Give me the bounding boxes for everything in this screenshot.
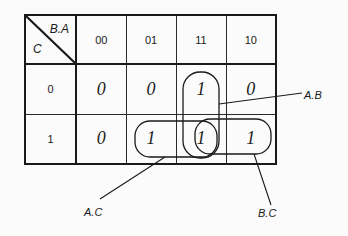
map-cell: 1 — [176, 114, 226, 164]
table-row: 1 0 1 1 1 — [25, 114, 276, 164]
row-variable-label: C — [33, 42, 42, 56]
header-row: B.A C 00 01 11 10 — [25, 15, 276, 64]
map-cell: 0 — [76, 64, 126, 114]
corner-cell: B.A C — [25, 15, 76, 64]
row-header: 1 — [25, 114, 76, 164]
map-cell: 1 — [226, 114, 276, 164]
term-label-ac: A.C — [84, 206, 102, 218]
karnaugh-map-table: B.A C 00 01 11 10 0 0 0 1 0 1 0 1 1 1 — [24, 14, 277, 165]
table-row: 0 0 0 1 0 — [25, 64, 276, 114]
map-cell: 0 — [226, 64, 276, 114]
column-header: 01 — [126, 15, 176, 64]
map-cell: 1 — [126, 114, 176, 164]
column-variables-label: B.A — [50, 22, 69, 36]
column-header: 11 — [176, 15, 226, 64]
term-label-bc: B.C — [258, 207, 276, 219]
term-label-ab: A.B — [304, 89, 322, 101]
column-header: 00 — [76, 15, 126, 64]
karnaugh-map-diagram: B.A C 00 01 11 10 0 0 0 1 0 1 0 1 1 1 — [0, 0, 348, 236]
column-header: 10 — [226, 15, 276, 64]
map-cell: 0 — [126, 64, 176, 114]
row-header: 0 — [25, 64, 76, 114]
map-cell: 0 — [76, 114, 126, 164]
map-cell: 1 — [176, 64, 226, 114]
